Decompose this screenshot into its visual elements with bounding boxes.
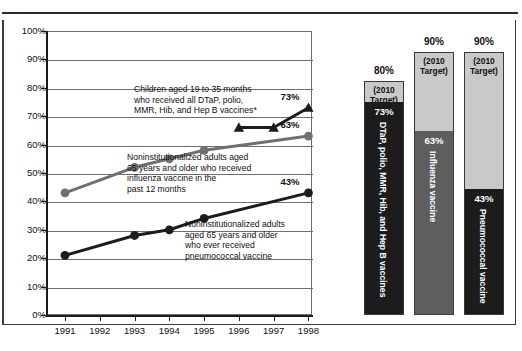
bar-category-label: Influenza vaccine — [428, 151, 438, 222]
annotation-influenza: Noninstitutionalized adults aged65 years… — [127, 152, 287, 194]
series-marker-circle — [304, 132, 313, 141]
annotation-line: aged 65 years and older — [185, 230, 315, 241]
bar-value-label: 73% — [364, 107, 404, 117]
series-marker-triangle — [303, 102, 313, 111]
annotation-line: past 12 months — [127, 184, 287, 195]
series-marker-circle — [304, 188, 313, 197]
annotation-line: Children aged 19 to 35 months — [134, 84, 284, 95]
chart-figure: 0%10%20%30%40%50%60%70%80%90%100% 199119… — [0, 0, 522, 351]
annotation-line: who ever received — [185, 240, 315, 251]
annotation-line: pneumococcal vaccine — [185, 251, 315, 262]
annotation-line: MMR, Hib, and Hep B vaccines* — [134, 105, 284, 116]
annotation-pneumococcal: Noninstitutionalized adultsaged 65 years… — [185, 219, 315, 261]
bar-target-value: 90% — [414, 37, 454, 47]
bar-value-label: 63% — [414, 136, 454, 146]
annotation-line: Noninstitutionalized adults aged — [127, 152, 287, 163]
bar-target-value: 80% — [364, 66, 404, 76]
series-marker-circle — [61, 188, 70, 197]
bar-value-label: 43% — [464, 194, 504, 204]
bar-target-tag: (2010Target) — [464, 57, 504, 76]
bar-target-value: 90% — [464, 37, 504, 47]
bar-target-tag: (2010Target) — [414, 57, 454, 76]
annotation-line: who received all DTaP, polio, — [134, 95, 284, 106]
annotation-line: Noninstitutionalized adults — [185, 219, 315, 230]
bar-target-tag-line: Target) — [414, 67, 454, 77]
bar-category-label: DTaP, polio, MMR, Hib, and Hep B vaccine… — [378, 122, 388, 297]
series-marker-circle — [165, 225, 174, 234]
annotation-line: 65 years and older who received — [127, 163, 287, 174]
bar-category-label: Pneumococcal vaccine — [478, 209, 488, 304]
series-marker-circle — [61, 251, 70, 260]
annotation-dtap: Children aged 19 to 35 monthswho receive… — [134, 84, 284, 116]
bar-target-tag-line: Target) — [464, 67, 504, 77]
annotation-line: influenza vaccine in the — [127, 173, 287, 184]
series-marker-circle — [130, 231, 139, 240]
series-end-value-label: 63% — [280, 120, 299, 130]
